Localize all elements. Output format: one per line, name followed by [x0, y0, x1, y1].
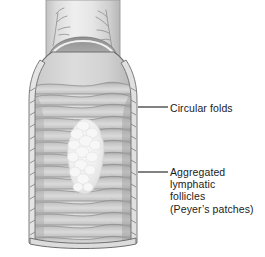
label-peyers-patches-line-3: follicles	[170, 190, 254, 202]
label-circular-folds-line-1: Circular folds	[170, 102, 233, 114]
label-peyers-patches: Aggregated lymphatic follicles (Peyer’s …	[170, 166, 254, 215]
label-circular-folds: Circular folds	[170, 102, 233, 114]
label-peyers-patches-line-1: Aggregated	[170, 166, 254, 178]
intestine-illustration	[0, 0, 265, 257]
label-peyers-patches-line-2: lymphatic	[170, 178, 254, 190]
label-peyers-patches-line-4: (Peyer’s patches)	[170, 203, 254, 215]
intestine-figure: Circular folds Aggregated lymphatic foll…	[0, 0, 265, 257]
